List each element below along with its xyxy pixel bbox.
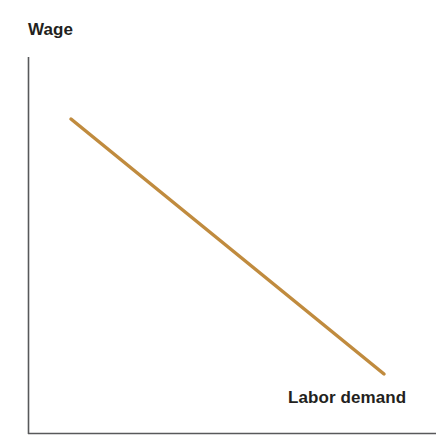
plot-area (0, 0, 442, 445)
labor-demand-chart: Wage Labor demand (0, 0, 442, 445)
labor-demand-curve (71, 119, 384, 374)
y-axis-title: Wage (28, 20, 73, 40)
labor-demand-curve-label: Labor demand (288, 388, 406, 408)
